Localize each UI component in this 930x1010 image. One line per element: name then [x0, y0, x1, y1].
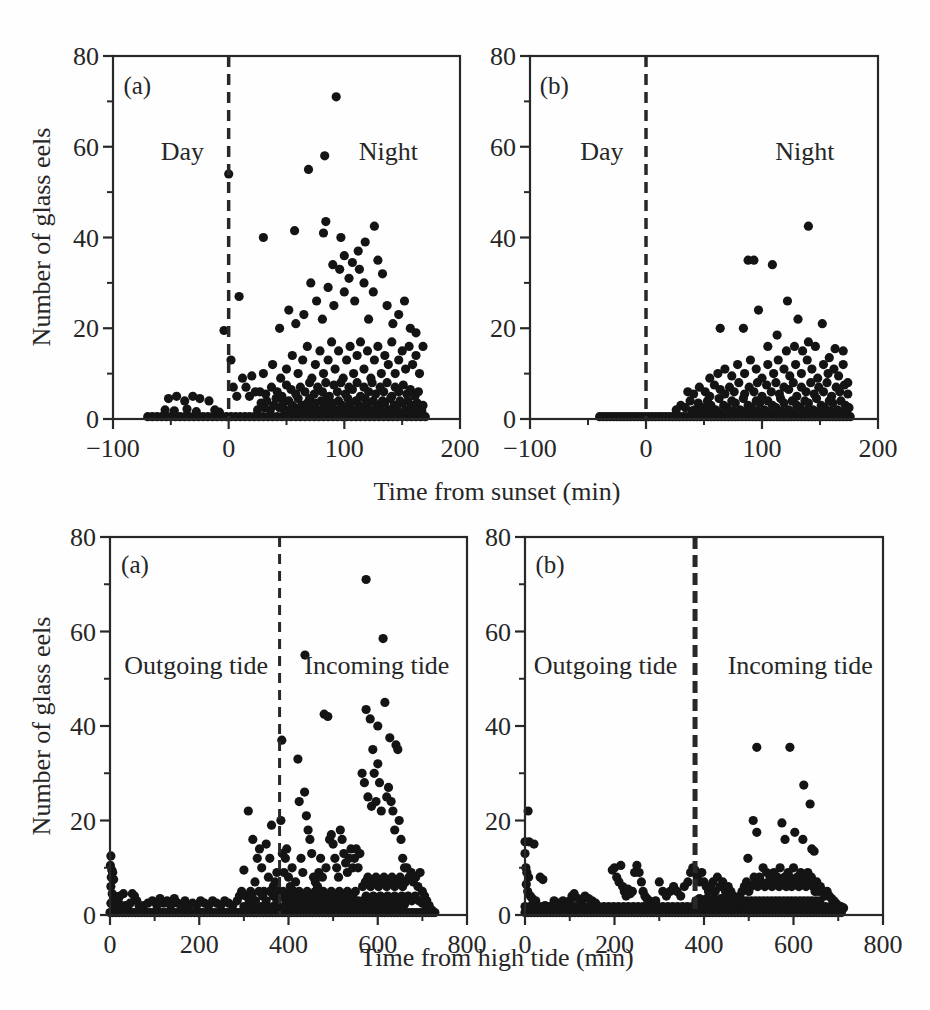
data-point — [387, 337, 396, 346]
y-tick-label: 20 — [70, 807, 96, 836]
data-point — [370, 222, 379, 231]
data-point — [298, 355, 307, 364]
data-point — [810, 406, 819, 415]
y-tick-label: 0 — [498, 901, 511, 930]
data-point — [769, 369, 778, 378]
y-tick-label: 60 — [485, 618, 511, 647]
data-point — [356, 337, 365, 346]
data-point — [415, 369, 424, 378]
data-point — [332, 92, 341, 101]
data-point — [793, 406, 802, 415]
data-point — [757, 392, 766, 401]
data-point — [391, 369, 400, 378]
data-point — [300, 387, 309, 396]
data-point — [362, 705, 371, 714]
data-point — [716, 324, 725, 333]
data-point — [304, 406, 313, 415]
data-point — [752, 743, 761, 752]
data-point — [336, 406, 345, 415]
data-point — [331, 365, 340, 374]
data-point — [361, 237, 370, 246]
data-point — [767, 387, 776, 396]
data-point — [324, 283, 333, 292]
data-point — [782, 346, 791, 355]
data-point — [336, 233, 345, 242]
data-point — [377, 369, 386, 378]
data-point — [704, 406, 713, 415]
data-point — [411, 351, 420, 360]
data-point — [785, 406, 794, 415]
data-point — [342, 355, 351, 364]
x-tick-label: 800 — [864, 930, 903, 959]
data-point — [262, 840, 271, 849]
data-point — [697, 868, 706, 877]
data-point — [798, 346, 807, 355]
data-point — [818, 406, 827, 415]
y-tick-label: 0 — [503, 405, 516, 434]
y-tick-label: 0 — [86, 405, 99, 434]
data-point — [734, 378, 743, 387]
data-point — [806, 799, 815, 808]
data-point — [354, 247, 363, 256]
data-point — [324, 355, 333, 364]
data-point — [815, 896, 824, 905]
data-point — [330, 854, 339, 863]
panel-sunset-a: −1000100200020406080(a)DayNight — [73, 42, 480, 463]
data-point — [348, 258, 357, 267]
data-point — [204, 396, 213, 405]
data-point — [172, 392, 181, 401]
data-point — [373, 759, 382, 768]
data-point — [822, 378, 831, 387]
data-point — [311, 360, 320, 369]
data-point — [336, 825, 345, 834]
region-label-outgoing-tide: Outgoing tide — [534, 651, 678, 680]
data-point — [235, 292, 244, 301]
data-point — [798, 835, 807, 844]
data-point — [241, 383, 250, 392]
x-tick-label: 200 — [441, 434, 480, 463]
data-point — [383, 378, 392, 387]
y-tick-label: 60 — [490, 133, 516, 162]
data-point — [379, 634, 388, 643]
data-point — [388, 806, 397, 815]
x-tick-label: 200 — [180, 930, 219, 959]
data-point — [276, 374, 285, 383]
data-point — [737, 406, 746, 415]
data-point — [368, 745, 377, 754]
data-point — [720, 365, 729, 374]
y-tick-label: 0 — [83, 901, 96, 930]
data-point — [390, 825, 399, 834]
y-tick-label: 40 — [73, 224, 99, 253]
data-point — [247, 371, 256, 380]
panel-tide-b: 0200400600800020406080(b)Outgoing tideIn… — [485, 523, 903, 959]
data-point — [290, 226, 299, 235]
data-point — [248, 835, 257, 844]
data-point — [826, 406, 835, 415]
data-point — [757, 374, 766, 383]
y-tick-label: 20 — [490, 314, 516, 343]
data-point — [761, 406, 770, 415]
x-tick-label: 100 — [743, 434, 782, 463]
data-point — [366, 714, 375, 723]
data-point — [373, 342, 382, 351]
data-point — [380, 698, 389, 707]
data-point — [307, 374, 316, 383]
x-tick-label: 200 — [859, 434, 898, 463]
data-point — [119, 889, 128, 898]
data-point — [383, 301, 392, 310]
data-point — [720, 406, 729, 415]
data-point — [834, 406, 843, 415]
data-point — [327, 830, 336, 839]
data-point — [340, 287, 349, 296]
data-point — [813, 374, 822, 383]
data-point — [655, 877, 664, 886]
y-tick-label: 80 — [485, 523, 511, 552]
data-point — [843, 389, 852, 398]
data-point — [307, 849, 316, 858]
data-point — [705, 392, 714, 401]
data-point — [334, 346, 343, 355]
data-point — [831, 902, 840, 911]
data-point — [753, 406, 762, 415]
x-tick-label: 400 — [269, 930, 308, 959]
y-tick-label: 80 — [73, 42, 99, 71]
